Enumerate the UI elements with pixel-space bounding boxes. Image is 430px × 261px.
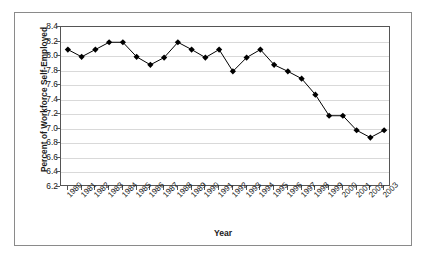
x-axis-tick-mark [314, 186, 315, 190]
data-point-marker [79, 54, 85, 60]
x-axis-tick-mark [301, 186, 302, 190]
y-axis-tick-mark [56, 186, 60, 187]
y-axis-tick-mark [56, 128, 60, 129]
data-point-marker [106, 39, 112, 45]
data-point-marker [147, 62, 153, 68]
x-axis-tick-mark [94, 186, 95, 190]
y-axis-tick-mark [56, 84, 60, 85]
x-axis-tick-mark [204, 186, 205, 190]
x-axis-tick-mark [67, 186, 68, 190]
y-axis-tick-label: 6.8 [36, 137, 58, 147]
y-axis-tick-label: 7.6 [36, 79, 58, 89]
x-axis-tick-mark [342, 186, 343, 190]
chart-figure: Percent of Workforce Self-Employed 8.48.… [0, 0, 430, 261]
x-axis-tick-mark [163, 186, 164, 190]
y-axis-tick-mark [56, 142, 60, 143]
x-axis-tick-mark [177, 186, 178, 190]
data-series-line [61, 27, 391, 187]
y-axis-tick-mark [56, 70, 60, 71]
x-axis-tick-mark [328, 186, 329, 190]
x-axis-tick-mark [218, 186, 219, 190]
y-axis-tick-mark [56, 41, 60, 42]
y-axis-tick-mark [56, 99, 60, 100]
data-point-marker [92, 46, 98, 52]
data-point-marker [326, 113, 332, 119]
y-axis-tick-label: 7.2 [36, 108, 58, 118]
y-axis-tick-labels: 8.48.28.07.87.67.47.27.06.86.66.46.2 [36, 26, 58, 186]
x-axis-tick-mark [108, 186, 109, 190]
y-axis-tick-mark [56, 55, 60, 56]
data-point-marker [285, 68, 291, 74]
x-axis-tick-mark [287, 186, 288, 190]
plot-area [60, 26, 390, 186]
x-axis-title: Year [56, 228, 390, 238]
data-point-marker [202, 54, 208, 60]
y-axis-tick-label: 7.0 [36, 123, 58, 133]
x-axis-tick-mark [149, 186, 150, 190]
x-axis-tick-mark [191, 186, 192, 190]
data-point-marker [381, 127, 387, 133]
y-axis-tick-mark [56, 157, 60, 158]
series-polyline [68, 42, 384, 137]
x-axis-tick-mark [81, 186, 82, 190]
data-point-marker [367, 134, 373, 140]
x-axis-tick-mark [259, 186, 260, 190]
data-point-marker [216, 46, 222, 52]
x-axis-tick-mark [369, 186, 370, 190]
y-axis-tick-label: 8.0 [36, 50, 58, 60]
x-axis-tick-mark [136, 186, 137, 190]
y-axis-tick-label: 8.2 [36, 36, 58, 46]
x-axis-tick-mark [246, 186, 247, 190]
y-axis-tick-mark [56, 26, 60, 27]
y-axis-tick-label: 6.4 [36, 166, 58, 176]
data-point-marker [189, 46, 195, 52]
y-axis-tick-label: 7.8 [36, 65, 58, 75]
y-axis-tick-mark [56, 171, 60, 172]
y-axis-tick-label: 6.6 [36, 152, 58, 162]
x-axis-tick-mark [122, 186, 123, 190]
y-axis-tick-label: 6.2 [36, 181, 58, 191]
x-axis-tick-mark [356, 186, 357, 190]
x-axis-tick-mark [383, 186, 384, 190]
series-markers [65, 39, 387, 140]
data-point-marker [65, 46, 71, 52]
y-axis-tick-mark [56, 113, 60, 114]
x-axis-tick-mark [273, 186, 274, 190]
y-axis-tick-label: 7.4 [36, 94, 58, 104]
x-axis-tick-marks [60, 186, 390, 191]
x-axis-tick-mark [232, 186, 233, 190]
y-axis-tick-label: 8.4 [36, 21, 58, 31]
